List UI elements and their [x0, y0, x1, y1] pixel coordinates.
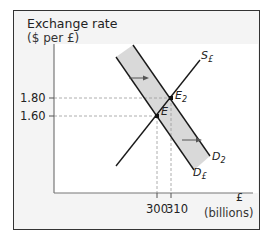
label-equilibrium-e2: E2	[175, 89, 187, 104]
y-axis-unit: ($ per £)	[27, 31, 79, 45]
y-tick-label-1-80: 1.80	[20, 91, 46, 105]
plot-area	[54, 44, 258, 193]
y-tick-label-1-60: 1.60	[20, 109, 46, 123]
x-tick-label-310: 310	[166, 202, 188, 216]
y-axis-title: Exchange rate	[27, 16, 117, 31]
label-supply-curve: S£	[201, 49, 213, 64]
equilibrium-point-e	[155, 114, 159, 118]
label-demand2-curve: D2	[212, 150, 226, 165]
x-tick-label-300: 300	[146, 202, 168, 216]
label-demand-curve: D£	[193, 166, 207, 181]
x-axis-title: £	[236, 191, 243, 204]
equilibrium-point-e2	[169, 96, 173, 100]
x-axis-unit: (billions)	[204, 206, 253, 220]
label-equilibrium-e: E	[161, 105, 168, 118]
